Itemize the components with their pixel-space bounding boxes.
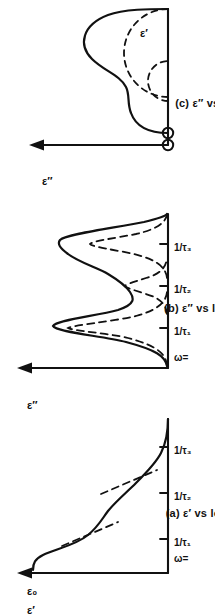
- panel-c-y-arrow: [29, 140, 44, 151]
- panel-b-xtick-2: 1/τ₂: [174, 284, 191, 295]
- panel-a-tangent-1: [62, 522, 118, 546]
- panel-a-xtick-prefix: ω=: [174, 553, 188, 564]
- panel-a-caption: (a) ε′ vs log ω: [101, 507, 216, 519]
- panel-b-y-axis-label: ε″: [27, 399, 38, 411]
- panel-c-locus-curve: [84, 9, 168, 133]
- panel-c: ε″ ε′ (c) ε″ vs ε′: [0, 0, 215, 205]
- panel-a-y-axis-label: ε′: [27, 604, 35, 615]
- panel-c-component-arc-2: [124, 9, 168, 97]
- panel-b-xtick-1: 1/τ₁: [174, 326, 191, 337]
- panel-b-component-peak-3: [90, 214, 167, 278]
- figure-canvas: ε′ ε₀ ω= 1/τ₁ 1/τ₂ 1/τ₃ (a) ε′ vs log ω: [0, 0, 215, 615]
- panel-c-caption: (c) ε″ vs ε′: [101, 97, 216, 109]
- panel-b-xtick-prefix: ω=: [174, 352, 188, 363]
- panel-c-y-axis-label: ε″: [42, 175, 53, 187]
- panel-a: ε′ ε₀ ω= 1/τ₁ 1/τ₂ 1/τ₃ (a) ε′ vs log ω: [0, 410, 215, 615]
- panel-a-y-axis-marker: ε₀: [27, 585, 37, 597]
- figure-rotated-group: ε′ ε₀ ω= 1/τ₁ 1/τ₂ 1/τ₃ (a) ε′ vs log ω: [0, 0, 215, 615]
- panel-c-component-arc-1: [148, 61, 168, 101]
- panel-a-xtick-2: 1/τ₂: [174, 491, 191, 502]
- panel-a-y-arrow: [17, 568, 32, 579]
- panel-b-y-arrow: [17, 363, 32, 374]
- panel-b: ε″ ω= 1/τ₁ 1/τ₂ 1/τ₃ (b) ε″ vs log ω: [0, 205, 215, 410]
- panel-a-xtick-3: 1/τ₃: [174, 445, 191, 456]
- panel-c-x-axis-label: ε′: [140, 27, 148, 39]
- panel-b-envelope-curve: [53, 214, 167, 366]
- panel-a-xtick-1: 1/τ₁: [174, 537, 191, 548]
- panel-b-xtick-3: 1/τ₃: [174, 242, 191, 253]
- panel-b-caption: (b) ε″ vs log ω: [101, 302, 216, 314]
